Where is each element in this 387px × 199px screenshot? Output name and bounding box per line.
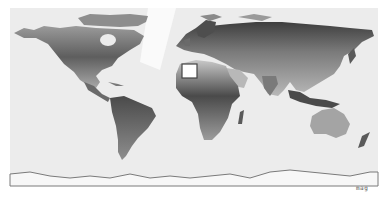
credit-label: MAG: [356, 184, 368, 191]
hudson-bay: [100, 34, 116, 46]
world-map[interactable]: [0, 0, 387, 199]
landmass-arctic-canada: [78, 14, 148, 27]
highlight-box[interactable]: [182, 64, 197, 78]
